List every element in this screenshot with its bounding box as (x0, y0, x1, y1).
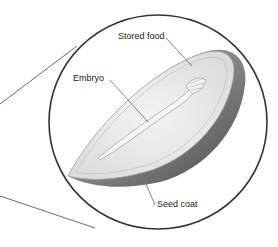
zoom-line-lower (0, 196, 95, 228)
label-embryo: Embryo (73, 73, 104, 83)
label-stored-food: Stored food (118, 31, 165, 41)
label-seed-coat: Seed coat (157, 199, 198, 209)
